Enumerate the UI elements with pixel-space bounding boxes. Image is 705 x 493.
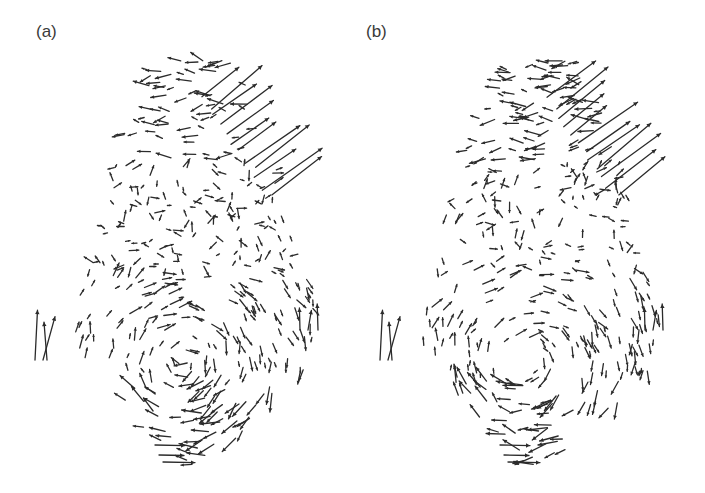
panel-b: (b) <box>353 0 705 493</box>
vector-field-plot-a <box>0 0 352 493</box>
vector-field-plot-b <box>353 0 705 493</box>
panel-a: (a) <box>0 0 352 493</box>
